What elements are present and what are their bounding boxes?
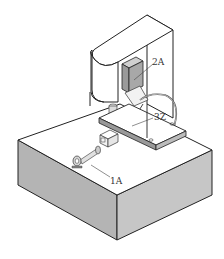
label-3z: 3Z (154, 112, 166, 122)
label-2a: 2A (152, 57, 165, 67)
machine-diagram: 2A 3Z 1A (0, 0, 224, 259)
label-1a: 1A (110, 176, 123, 186)
